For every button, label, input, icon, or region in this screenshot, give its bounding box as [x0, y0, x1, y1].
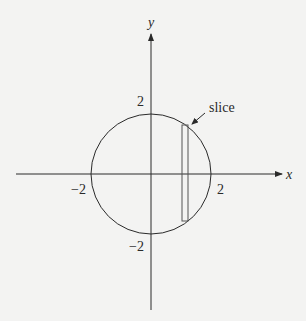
circle-slice-diagram: y x 2 −2 −2 2 slice — [0, 0, 306, 321]
slice-rectangle — [182, 125, 188, 221]
tick-label-y-pos: 2 — [137, 94, 144, 109]
diagram-canvas: y x 2 −2 −2 2 slice — [0, 0, 306, 321]
slice-pointer-arrow — [192, 113, 205, 124]
x-axis-label: x — [285, 167, 293, 182]
tick-label-y-neg: −2 — [129, 239, 144, 254]
slice-label: slice — [209, 100, 235, 115]
y-axis-label: y — [146, 15, 155, 30]
tick-label-x-pos: 2 — [217, 182, 224, 197]
tick-label-x-neg: −2 — [71, 182, 86, 197]
